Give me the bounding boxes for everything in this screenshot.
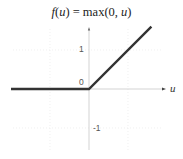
plot-area [0, 0, 183, 159]
y-tick-label: 0 [79, 77, 84, 87]
y-tick-label: 1 [79, 44, 84, 54]
x-axis-label: u [170, 82, 176, 94]
relu-chart: f(u) = max(0, u) 1 0 -1 u [0, 0, 183, 159]
x-axis-arrow-icon [162, 88, 166, 91]
y-axis-arrow-icon [88, 27, 90, 31]
y-tick-label: -1 [93, 123, 101, 133]
